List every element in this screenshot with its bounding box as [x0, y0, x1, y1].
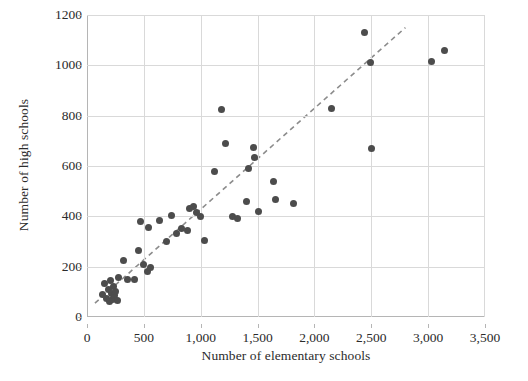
- data-point: [328, 105, 335, 112]
- y-tick-label: 200: [4, 260, 82, 274]
- x-tick-label: 500: [134, 331, 154, 345]
- data-point: [135, 247, 142, 254]
- data-point: [131, 276, 138, 283]
- x-tick-label: 2,500: [356, 331, 386, 345]
- data-point: [114, 297, 121, 304]
- gridline-horizontal: [87, 65, 485, 66]
- y-tick-mark: [78, 166, 82, 167]
- data-point: [234, 215, 241, 222]
- data-point: [290, 200, 297, 207]
- y-tick-mark: [78, 267, 82, 268]
- x-tick-label: 1,000: [186, 331, 216, 345]
- data-point: [124, 276, 131, 283]
- x-tick-label: 2,000: [299, 331, 329, 345]
- data-point: [255, 208, 262, 215]
- data-point: [441, 47, 448, 54]
- data-point: [112, 288, 119, 295]
- data-point: [120, 257, 127, 264]
- y-tick-mark: [78, 15, 82, 16]
- gridline-vertical: [201, 15, 202, 317]
- y-tick-label: 1000: [4, 59, 82, 73]
- gridline-vertical: [314, 15, 315, 317]
- x-tick-label: 1,500: [242, 331, 272, 345]
- y-tick-label: 800: [4, 109, 82, 123]
- data-point: [367, 59, 374, 66]
- data-point: [218, 106, 225, 113]
- data-point: [361, 29, 368, 36]
- data-point: [184, 227, 191, 234]
- data-point: [428, 58, 435, 65]
- data-point: [245, 165, 252, 172]
- data-point: [368, 145, 375, 152]
- x-tick-mark: [258, 324, 259, 328]
- x-axis-tick-labels: 05001,0001,5002,0002,5003,0003,500: [87, 324, 485, 344]
- plot-area: [87, 15, 485, 317]
- gridline-horizontal: [87, 216, 485, 217]
- y-tick-mark: [78, 116, 82, 117]
- x-tick-mark: [371, 324, 372, 328]
- data-point: [250, 144, 257, 151]
- data-point: [201, 237, 208, 244]
- data-point: [197, 213, 204, 220]
- x-tick-label: 3,000: [413, 331, 443, 345]
- y-tick-label: 1200: [4, 8, 82, 22]
- x-axis-title: Number of elementary schools: [87, 348, 485, 364]
- data-point: [251, 154, 258, 161]
- y-tick-mark: [78, 317, 82, 318]
- data-point: [270, 178, 277, 185]
- x-tick-mark: [201, 324, 202, 328]
- gridline-horizontal: [87, 166, 485, 167]
- data-point: [147, 264, 154, 271]
- x-tick-mark: [428, 324, 429, 328]
- gridline-vertical: [258, 15, 259, 317]
- y-tick-label: 600: [4, 159, 82, 173]
- data-point: [272, 196, 279, 203]
- gridline-horizontal: [87, 116, 485, 117]
- x-tick-label: 3,500: [470, 331, 500, 345]
- x-axis-line: [87, 316, 485, 317]
- x-tick-mark: [144, 324, 145, 328]
- x-tick-mark: [314, 324, 315, 328]
- data-point: [156, 217, 163, 224]
- data-point: [115, 274, 122, 281]
- y-tick-mark: [78, 65, 82, 66]
- data-point: [211, 168, 218, 175]
- data-point: [168, 212, 175, 219]
- y-tick-label: 400: [4, 210, 82, 224]
- y-tick-label: 0: [4, 310, 82, 324]
- scatter-chart: Number of high schools 02004006008001000…: [0, 0, 528, 381]
- x-tick-label: 0: [84, 331, 91, 345]
- data-point: [137, 218, 144, 225]
- x-tick-mark: [485, 324, 486, 328]
- x-tick-mark: [87, 324, 88, 328]
- data-point: [145, 224, 152, 231]
- y-axis-tick-labels: 020040060080010001200: [0, 15, 82, 317]
- y-tick-mark: [78, 216, 82, 217]
- gridline-horizontal: [87, 15, 485, 16]
- data-point: [243, 198, 250, 205]
- data-point: [163, 238, 170, 245]
- data-point: [222, 140, 229, 147]
